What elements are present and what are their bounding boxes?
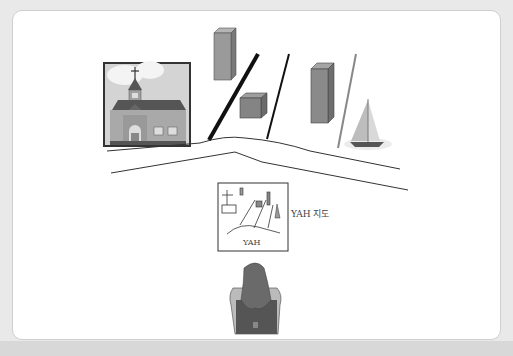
yah-map-caption: YAH 지도 bbox=[291, 207, 329, 220]
sailboat bbox=[344, 99, 392, 150]
scene-illustration bbox=[0, 0, 513, 356]
tall-building-right bbox=[311, 63, 334, 123]
street-line-thin bbox=[267, 54, 289, 139]
street-line-gray bbox=[338, 54, 356, 148]
person-back-view bbox=[230, 263, 281, 334]
tall-building-left bbox=[214, 28, 236, 80]
church-picture bbox=[104, 61, 190, 146]
cube-building bbox=[240, 93, 267, 118]
yah-map-label: YAH bbox=[243, 238, 260, 247]
